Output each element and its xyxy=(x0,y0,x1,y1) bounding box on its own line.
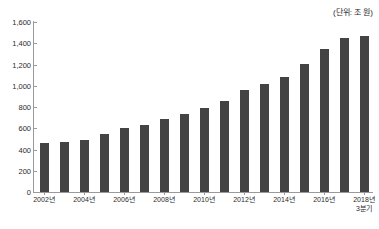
y-axis-tick-label: 800 xyxy=(3,103,31,112)
bar xyxy=(200,108,209,192)
bar xyxy=(260,84,269,192)
x-axis-tick-label: 2002년 xyxy=(33,195,55,204)
y-axis-tick xyxy=(33,86,37,87)
y-axis-tick xyxy=(33,43,37,44)
bar xyxy=(160,119,169,192)
bar xyxy=(60,142,69,192)
y-axis-tick xyxy=(33,107,37,108)
x-axis-tick-label: 2004년 xyxy=(73,195,95,204)
x-axis-tick-label: 2010년 xyxy=(193,195,215,204)
y-axis-tick xyxy=(33,128,37,129)
bar xyxy=(140,125,149,192)
bar xyxy=(300,64,309,192)
unit-annotation: (단위: 조 원) xyxy=(333,6,373,17)
y-axis-tick xyxy=(33,22,37,23)
x-axis-tick-label: 2008년 xyxy=(153,195,175,204)
bar xyxy=(360,36,369,193)
x-axis-tick-label: 2016년 xyxy=(313,195,335,204)
y-axis-tick-label: 600 xyxy=(3,124,31,133)
y-axis-tick-label: 400 xyxy=(3,145,31,154)
bar xyxy=(120,128,129,192)
x-axis-tick-label: 2006년 xyxy=(113,195,135,204)
x-axis-tick-label: 2014년 xyxy=(273,195,295,204)
y-axis-tick xyxy=(33,150,37,151)
bar-series xyxy=(34,22,373,192)
y-axis-tick-label: 1,200 xyxy=(3,60,31,69)
y-axis-tick xyxy=(33,171,37,172)
bar xyxy=(240,90,249,192)
y-axis-tick-label: 0 xyxy=(3,188,31,197)
y-axis-labels: 02004006008001,0001,2001,4001,600 xyxy=(0,0,31,229)
bar xyxy=(180,114,189,192)
y-axis-tick-label: 200 xyxy=(3,166,31,175)
bar xyxy=(280,77,289,192)
bar xyxy=(320,49,329,192)
bar xyxy=(220,101,229,192)
y-axis-tick xyxy=(33,65,37,66)
bar xyxy=(340,38,349,192)
y-axis-tick xyxy=(33,192,37,193)
y-axis-tick-label: 1,600 xyxy=(3,18,31,27)
bar-chart-figure: (단위: 조 원) 02004006008001,0001,2001,4001,… xyxy=(0,0,379,229)
x-axis-tick-label: 2018년3분기 xyxy=(353,195,375,213)
x-axis-tick-label: 2012년 xyxy=(233,195,255,204)
bar xyxy=(80,140,89,192)
bar xyxy=(40,143,49,192)
x-axis-tick-sublabel: 3분기 xyxy=(353,204,375,213)
y-axis-tick-label: 1,400 xyxy=(3,39,31,48)
bar xyxy=(100,134,109,192)
y-axis-tick-label: 1,000 xyxy=(3,81,31,90)
